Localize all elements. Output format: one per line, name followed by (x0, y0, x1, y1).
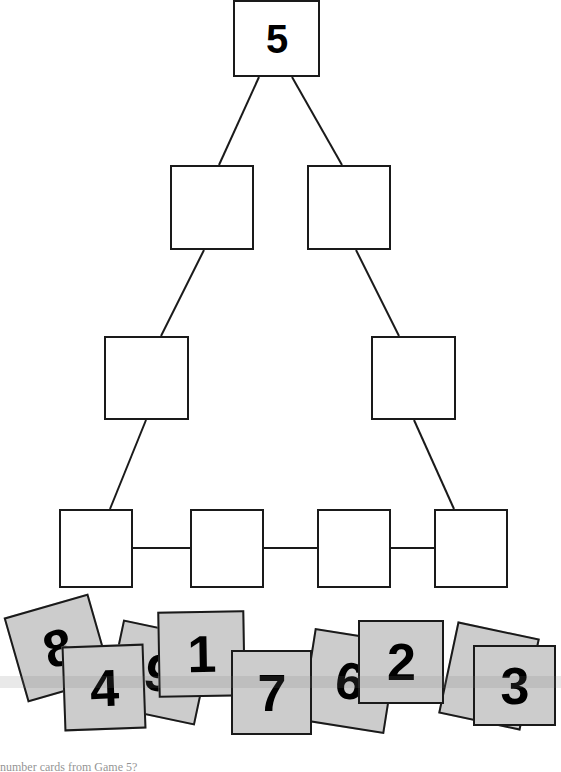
tree-box-r2c1[interactable] (170, 165, 254, 250)
number-card-label: 2 (387, 636, 415, 688)
connector-line-r2c1-r3c1 (161, 250, 204, 336)
tree-box-r4c1[interactable] (59, 509, 133, 588)
connector-line-r2c2-r3c2 (356, 250, 399, 336)
tree-box-r3c1[interactable] (104, 336, 189, 420)
connector-line-r3c1-r4c1 (110, 420, 146, 509)
tree-box-r2c2[interactable] (307, 165, 391, 250)
connector-line-r3c2-r4c4 (414, 420, 454, 509)
number-card-label: 7 (258, 667, 286, 719)
caption-text: number cards from Game 5? (0, 760, 400, 772)
tree-box-r4c3[interactable] (317, 509, 391, 588)
number-card-label: 4 (89, 661, 119, 714)
number-card-2[interactable]: 2 (358, 620, 444, 704)
tree-box-r4c2[interactable] (190, 509, 264, 588)
number-card-7[interactable]: 7 (231, 650, 312, 735)
tree-box-r1c1[interactable]: 5 (233, 0, 320, 77)
connector-line-r1c1-r2c1 (219, 77, 259, 165)
number-card-label: 3 (501, 660, 529, 712)
tree-box-r3c2[interactable] (371, 336, 456, 420)
worksheet-canvas: 5 849176253 number cards from Game 5? (0, 0, 561, 772)
tree-box-r4c4[interactable] (434, 509, 508, 588)
number-card-3[interactable]: 3 (473, 645, 556, 726)
connector-line-r1c1-r2c2 (292, 77, 342, 165)
tree-box-label: 5 (266, 19, 287, 59)
number-card-label: 1 (187, 628, 216, 680)
number-card-4[interactable]: 4 (62, 644, 147, 732)
